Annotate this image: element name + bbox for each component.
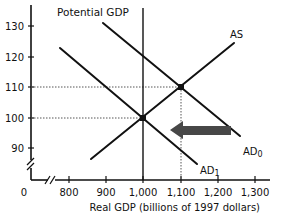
shift-left-arrow <box>170 121 231 139</box>
ad1-curve <box>60 48 197 164</box>
y-tick-90: 90 <box>11 143 24 154</box>
potential-gdp-label: Potential GDP <box>57 6 129 18</box>
equilibrium-point-initial <box>178 84 184 90</box>
x-axis-label: Real GDP (billions of 1997 dollars) <box>90 202 261 213</box>
ad0-label: AD0 <box>243 146 263 159</box>
as-label: AS <box>230 29 243 40</box>
x-tick-1300: 1,300 <box>241 187 270 198</box>
ad-as-chart: 130 120 110 100 90 0 800 900 1,000 1,100… <box>0 0 284 219</box>
y-tick-100: 100 <box>5 113 24 124</box>
y-tick-120: 120 <box>5 52 24 63</box>
x-tick-800: 800 <box>59 187 78 198</box>
y-tick-130: 130 <box>5 21 24 32</box>
y-tick-110: 110 <box>5 82 24 93</box>
ad0-curve <box>103 23 240 136</box>
x-tick-900: 900 <box>96 187 115 198</box>
y-tick-labels: 130 120 110 100 90 <box>5 21 24 154</box>
x-tick-labels: 0 800 900 1,000 1,100 1,200 1,300 <box>21 187 270 198</box>
curves <box>60 23 240 164</box>
x-tick-1000: 1,000 <box>129 187 158 198</box>
equilibrium-point-new <box>140 115 146 121</box>
ad1-label: AD1 <box>200 165 220 178</box>
as-curve <box>91 43 234 159</box>
guide-lines <box>31 87 181 180</box>
origin-label: 0 <box>21 187 27 198</box>
x-tick-1200: 1,200 <box>204 187 233 198</box>
x-tick-1100: 1,100 <box>167 187 196 198</box>
